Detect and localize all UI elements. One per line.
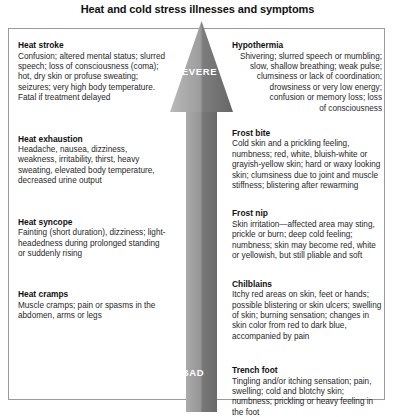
illness-title: Frost bite <box>232 128 382 139</box>
block-spacer <box>18 113 168 134</box>
illness-title: Heat exhaustion <box>18 134 168 145</box>
illness-symptoms: Shivering; slurred speech or mumbling; s… <box>232 52 382 114</box>
block-spacer <box>18 268 168 289</box>
symptom-line: Shivering; slurred speech or mumbling; <box>232 52 382 62</box>
illness-block-frost-bite: Frost bite Cold skin and a prickling fee… <box>232 128 382 192</box>
illness-symptoms: Tingling and/or itching sensation; pain,… <box>232 377 382 417</box>
block-spacer <box>232 271 382 279</box>
block-spacer <box>232 351 382 365</box>
illness-block-heat-stroke: Heat stroke Confusion; altered mental st… <box>18 40 168 104</box>
illness-title: Heat syncope <box>18 217 168 228</box>
arrow-label-bad: BAD <box>173 367 213 378</box>
symptom-line: confusion or memory loss; loss <box>232 93 382 103</box>
illness-block-frost-nip: Frost nip Skin irritation—affected area … <box>232 208 382 261</box>
heat-illness-column: Heat stroke Confusion; altered mental st… <box>18 40 168 331</box>
illness-title: Chilblains <box>232 279 382 290</box>
block-spacer <box>232 200 382 208</box>
arrow-label-severe: SEVERE <box>170 66 222 77</box>
symptom-line: drowsiness or very low energy; <box>232 83 382 93</box>
illness-title: Frost nip <box>232 208 382 219</box>
illness-symptoms: Headache, nausea, dizziness, weakness, i… <box>18 145 168 187</box>
symptom-line: clumsiness or lack of coordination; <box>232 72 382 82</box>
illness-block-heat-syncope: Heat syncope Fainting (short duration), … <box>18 217 168 260</box>
illness-block-hypothermia: Hypothermia Shivering; slurred speech or… <box>232 40 382 114</box>
illness-symptoms: Fainting (short duration), dizziness; li… <box>18 228 168 259</box>
illness-title: Hypothermia <box>232 40 382 51</box>
illness-block-chilblains: Chilblains Itchy red areas on skin, feet… <box>232 279 382 343</box>
illness-title: Trench foot <box>232 365 382 376</box>
illness-block-heat-exhaustion: Heat exhaustion Headache, nausea, dizzin… <box>18 134 168 187</box>
illness-symptoms: Itchy red areas on skin, feet or hands; … <box>232 290 382 342</box>
symptom-line: slow, shallow breathing; weak pulse; <box>232 62 382 72</box>
illness-symptoms: Cold skin and a prickling feeling, numbn… <box>232 139 382 191</box>
symptom-line: of consciousness <box>232 104 382 114</box>
illness-block-heat-cramps: Heat cramps Muscle cramps; pain or spasm… <box>18 289 168 321</box>
block-spacer <box>18 196 168 217</box>
illness-symptoms: Muscle cramps; pain or spasms in the abd… <box>18 301 168 322</box>
illness-title: Heat cramps <box>18 289 168 300</box>
cold-illness-column: Hypothermia Shivering; slurred speech or… <box>232 40 382 417</box>
illness-block-trench-foot: Trench foot Tingling and/or itching sens… <box>232 365 382 417</box>
page-title: Heat and cold stress illnesses and sympt… <box>0 3 395 15</box>
illness-symptoms: Skin irritation—affected area may sting,… <box>232 220 382 262</box>
illness-symptoms: Confusion; altered mental status; slurre… <box>18 52 168 104</box>
illness-title: Heat stroke <box>18 40 168 51</box>
